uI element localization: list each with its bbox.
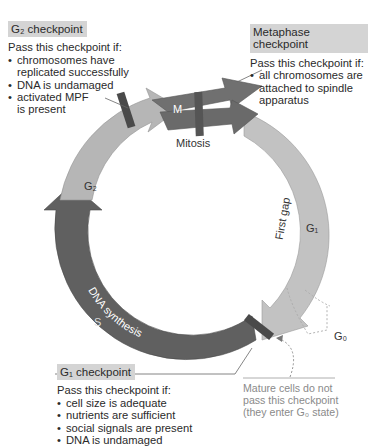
g2-condition: DNA is undamaged bbox=[8, 79, 158, 91]
g2-symbol: G₂ bbox=[84, 180, 97, 192]
first-gap-label: First gap bbox=[273, 196, 292, 240]
g1-checkpoint-box: G₁ checkpoint Pass this checkpoint if: c… bbox=[57, 364, 227, 446]
g0-dotted-arrowhead bbox=[276, 335, 283, 342]
metaphase-condition: all chromosomes are attached to spindle … bbox=[250, 69, 368, 106]
metaphase-conditions-list: all chromosomes are attached to spindle … bbox=[250, 69, 368, 106]
g2-checkpoint-title: G₂ checkpoint bbox=[8, 21, 87, 37]
g1-conditions-list: cell size is adequate nutrients are suff… bbox=[57, 397, 227, 446]
metaphase-checkpoint-intro: Pass this checkpoint if: bbox=[250, 57, 368, 69]
g1-checkpoint-title: G₁ checkpoint bbox=[57, 364, 135, 380]
g1-symbol: G₁ bbox=[306, 222, 319, 234]
g2-conditions-list: chromosomes have replicated successfully… bbox=[8, 54, 158, 116]
g1-condition: cell size is adequate bbox=[57, 397, 227, 409]
g0-note: Mature cells do not pass this checkpoint… bbox=[243, 382, 348, 419]
g2-condition: chromosomes have replicated successfully bbox=[8, 54, 158, 79]
metaphase-checkpoint-bar bbox=[194, 92, 204, 136]
g2-condition: activated MPF is present bbox=[8, 91, 97, 116]
g1-condition: social signals are present bbox=[57, 422, 227, 434]
metaphase-checkpoint-box: Metaphase checkpoint Pass this checkpoin… bbox=[250, 24, 368, 106]
g1-condition: nutrients are sufficient bbox=[57, 409, 227, 421]
g1-condition: DNA is undamaged bbox=[57, 434, 227, 446]
metaphase-checkpoint-title: Metaphase checkpoint bbox=[250, 24, 368, 53]
mitosis-label: Mitosis bbox=[176, 137, 211, 149]
g1-checkpoint-intro: Pass this checkpoint if: bbox=[57, 384, 227, 396]
g0-symbol: G₀ bbox=[334, 330, 347, 342]
s-arrow bbox=[44, 184, 256, 360]
m-arrow-upper bbox=[152, 78, 262, 112]
m-symbol: M bbox=[173, 103, 182, 115]
g2-checkpoint-intro: Pass this checkpoint if: bbox=[8, 41, 158, 53]
g2-checkpoint-box: G₂ checkpoint Pass this checkpoint if: c… bbox=[8, 21, 158, 116]
g0-dotted-mature bbox=[276, 338, 294, 377]
s-symbol: S bbox=[94, 316, 101, 328]
